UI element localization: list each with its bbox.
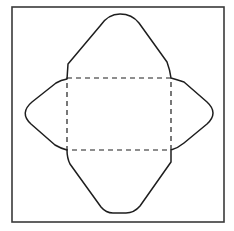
envelope-cut-outline xyxy=(25,14,213,213)
envelope-template-diagram xyxy=(0,0,234,231)
outer-frame xyxy=(12,7,224,222)
fold-rectangle xyxy=(67,78,171,150)
